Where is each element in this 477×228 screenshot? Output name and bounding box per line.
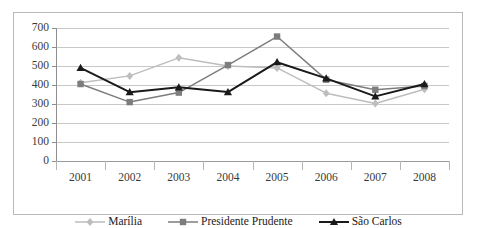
y-axis-label-500: 500 [32,60,49,72]
data-point-marker [126,72,133,80]
data-point-marker [273,58,281,65]
x-axis-label-2008: 2008 [413,172,436,184]
legend-swatch-square-icon [168,216,198,228]
plot-area: 0100200300400500600700 20012002200320042… [56,28,449,161]
x-tick-separator [154,161,155,170]
data-point-marker [323,89,330,97]
x-axis-label-2002: 2002 [118,172,141,184]
legend-item-são-carlos[interactable]: São Carlos [319,216,402,228]
y-axis-label-700: 700 [32,22,49,34]
y-axis-label-100: 100 [32,136,49,148]
data-point-marker [126,99,132,105]
data-point-marker [175,54,182,62]
chart-frame: 0100200300400500600700 20012002200320042… [13,12,463,215]
x-axis-label-2003: 2003 [167,172,190,184]
legend-swatch-triangle-icon [319,216,349,228]
x-tick-separator [302,161,303,170]
x-axis-label-2006: 2006 [315,172,338,184]
chart-legend: MaríliaPresidente PrudenteSão Carlos [0,216,477,228]
legend-label: São Carlos [352,216,402,228]
x-tick-separator [203,161,204,170]
data-point-marker [225,62,231,68]
legend-swatch-diamond-icon [75,216,105,228]
y-axis-label-400: 400 [32,79,49,91]
y-axis-label-0: 0 [43,155,49,167]
data-point-marker [76,64,84,71]
y-axis-label-200: 200 [32,117,49,129]
data-point-marker [372,99,379,107]
x-axis-label-2005: 2005 [266,172,289,184]
x-tick-separator [56,161,57,170]
y-axis-label-600: 600 [32,41,49,53]
x-axis-label-2007: 2007 [364,172,387,184]
x-tick-separator [449,161,450,170]
data-point-marker [274,33,280,39]
series-plot [56,28,449,161]
x-tick-separator [351,161,352,170]
legend-label: Marília [108,216,142,228]
legend-item-marília[interactable]: Marília [75,216,142,228]
legend-item-presidente-prudente[interactable]: Presidente Prudente [168,216,293,228]
x-tick-separator [105,161,106,170]
data-point-marker [77,81,83,87]
x-tick-separator [400,161,401,170]
series-line [81,58,425,104]
legend-label: Presidente Prudente [201,216,293,228]
x-tick-separator [253,161,254,170]
y-axis-label-300: 300 [32,98,49,110]
x-axis-label-2001: 2001 [69,172,92,184]
x-axis-label-2004: 2004 [216,172,239,184]
data-point-marker [372,87,378,93]
